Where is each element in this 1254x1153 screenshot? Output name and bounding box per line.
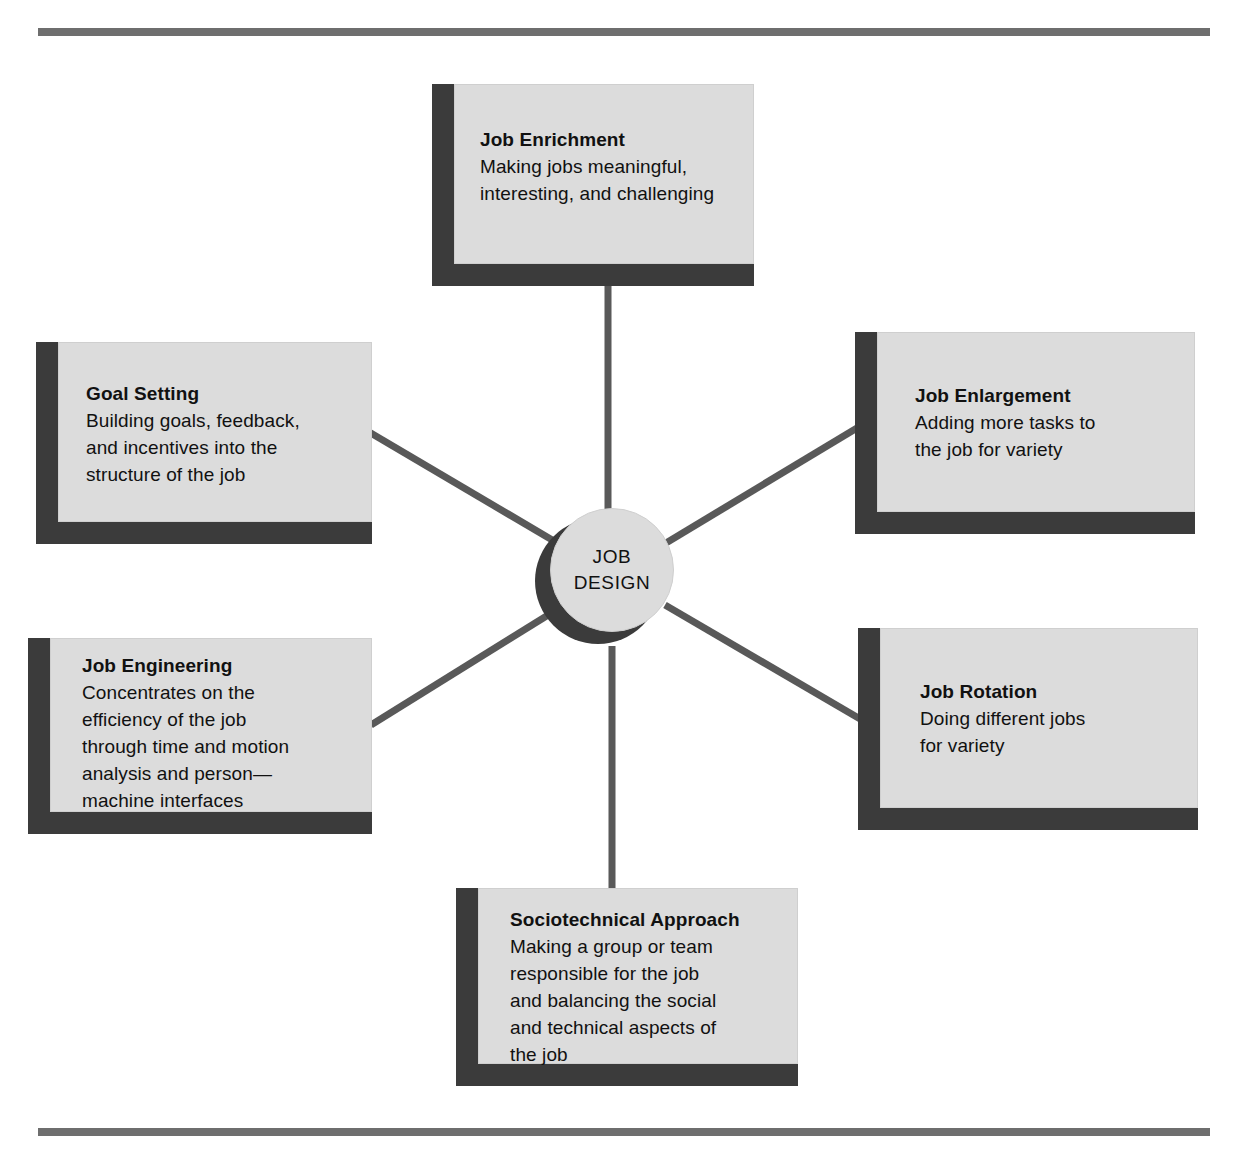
node-job-engineering[interactable]: Job Engineering Concentrates on the effi… [28,638,372,834]
hub-label-line2: DESIGN [574,570,650,596]
connector-hub-to-goal-setting [369,432,559,544]
node-text: Job Enrichment Making jobs meaningful, i… [432,84,754,286]
node-title: Goal Setting [86,380,372,407]
connector-hub-to-job-rotation [665,605,867,723]
hub-label-line1: JOB [593,544,632,570]
node-job-rotation[interactable]: Job Rotation Doing different jobs for va… [858,628,1198,830]
node-title: Job Engineering [82,652,372,679]
connector-hub-to-job-enlargement [666,425,862,543]
node-job-enlargement[interactable]: Job Enlargement Adding more tasks to the… [855,332,1195,534]
node-description: Adding more tasks to the job for variety [915,409,1195,463]
diagram-canvas: Job Enrichment Making jobs meaningful, i… [0,0,1254,1153]
node-text: Job Engineering Concentrates on the effi… [28,638,372,834]
node-title: Job Rotation [920,678,1198,705]
bottom-rule [38,1128,1210,1136]
hub-face: JOB DESIGN [550,508,674,632]
node-title: Sociotechnical Approach [510,906,798,933]
node-description: Building goals, feedback, and incentives… [86,407,372,488]
node-description: Concentrates on the efficiency of the jo… [82,679,372,814]
node-description: Making jobs meaningful, interesting, and… [480,153,754,207]
node-job-enrichment[interactable]: Job Enrichment Making jobs meaningful, i… [432,84,754,286]
node-title: Job Enlargement [915,382,1195,409]
node-description: Doing different jobs for variety [920,705,1198,759]
node-goal-setting[interactable]: Goal Setting Building goals, feedback, a… [36,342,372,544]
node-sociotechnical-approach[interactable]: Sociotechnical Approach Making a group o… [456,888,798,1086]
connector-hub-to-job-engineering [371,612,553,725]
node-text: Job Enlargement Adding more tasks to the… [855,332,1195,534]
node-description: Making a group or team responsible for t… [510,933,798,1068]
node-text: Goal Setting Building goals, feedback, a… [36,342,372,544]
node-title: Job Enrichment [480,126,754,153]
node-text: Sociotechnical Approach Making a group o… [456,888,798,1086]
hub-job-design[interactable]: JOB DESIGN [535,508,681,646]
node-text: Job Rotation Doing different jobs for va… [858,628,1198,830]
